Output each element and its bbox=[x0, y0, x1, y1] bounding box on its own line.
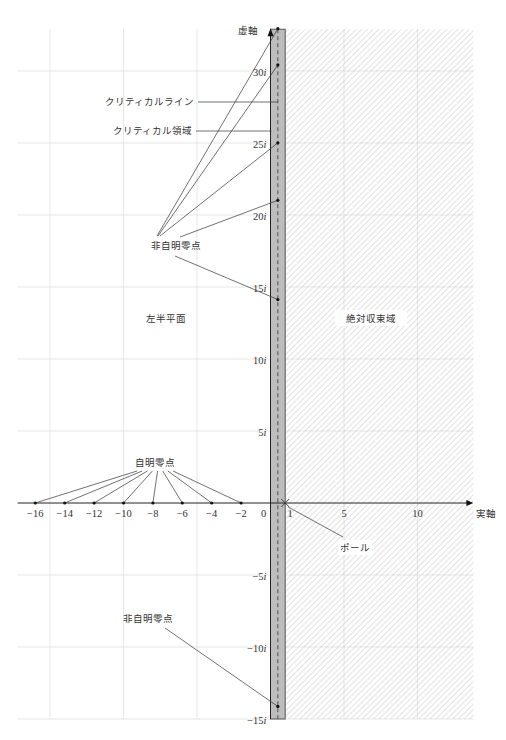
trivial-zero-leader bbox=[168, 471, 212, 503]
critical-strip-label: クリティカル領域 bbox=[113, 125, 192, 136]
y-tick-label: 30i bbox=[253, 67, 267, 78]
nontrivial-zero-leader bbox=[165, 628, 278, 706]
real-axis-label: 実軸 bbox=[476, 508, 496, 519]
y-tick-label: −10i bbox=[247, 643, 266, 654]
imaginary-axis-label: 虚軸 bbox=[238, 25, 258, 36]
trivial-zero-dot bbox=[93, 501, 96, 504]
trivial-zero-dot bbox=[151, 501, 154, 504]
y-tick-label: 20i bbox=[253, 211, 267, 222]
nontrivial-zero-dot bbox=[276, 199, 279, 202]
trivial-zero-dot bbox=[122, 501, 125, 504]
trivial-zeros-label: 自明零点 bbox=[135, 457, 175, 468]
nontrivial-zero-dot bbox=[276, 63, 279, 66]
trivial-zero-leader bbox=[35, 471, 137, 503]
nontrivial-zero-dot bbox=[276, 705, 279, 708]
nontrivial-zero-dot bbox=[276, 141, 279, 144]
left-half-plane-label: 左半平面 bbox=[146, 313, 186, 324]
trivial-zero-leader bbox=[65, 471, 142, 503]
trivial-zero-leader bbox=[163, 471, 183, 503]
x-tick-label: −2 bbox=[236, 508, 247, 519]
x-tick-label: −14 bbox=[56, 508, 73, 519]
absolute-convergence-label: 絶対収束域 bbox=[346, 313, 396, 324]
y-tick-label: 5i bbox=[258, 427, 266, 438]
riemann-zeta-complex-plane: −16−14−12−10−8−6−4−20151030i25i20i15i10i… bbox=[0, 0, 506, 740]
x-tick-label: −6 bbox=[177, 508, 188, 519]
x-tick-label: −12 bbox=[86, 508, 102, 519]
x-tick-label: −8 bbox=[147, 508, 158, 519]
x-tick-label: 1 bbox=[288, 508, 293, 519]
x-tick-label: 0 bbox=[261, 508, 266, 519]
trivial-zero-dot bbox=[63, 501, 66, 504]
y-tick-label: 15i bbox=[253, 283, 267, 294]
nontrivial-zeros-upper-label: 非自明零点 bbox=[151, 240, 201, 251]
trivial-zero-dot bbox=[240, 501, 243, 504]
trivial-zero-dot bbox=[181, 501, 184, 504]
x-tick-label: 5 bbox=[341, 508, 346, 519]
y-tick-label: −5i bbox=[252, 571, 266, 582]
y-tick-label: 10i bbox=[253, 355, 267, 366]
trivial-zero-leader bbox=[153, 471, 158, 503]
trivial-zero-leader bbox=[173, 471, 241, 503]
pole-label: ポール bbox=[340, 542, 370, 553]
absolute-convergence-region bbox=[285, 29, 473, 719]
nontrivial-zero-dot bbox=[276, 27, 279, 30]
nontrivial-zero-dot bbox=[276, 298, 279, 301]
x-tick-label: −10 bbox=[115, 508, 131, 519]
x-tick-label: 10 bbox=[412, 508, 423, 519]
critical-line-label: クリティカルライン bbox=[105, 96, 194, 107]
y-tick-label: −15i bbox=[247, 715, 266, 726]
y-tick-label: 25i bbox=[253, 139, 267, 150]
nontrivial-zero-leader bbox=[175, 256, 278, 300]
trivial-zero-dot bbox=[210, 501, 213, 504]
x-tick-label: −16 bbox=[27, 508, 43, 519]
x-tick-label: −4 bbox=[206, 508, 218, 519]
trivial-zero-leader bbox=[124, 471, 153, 503]
nontrivial-zero-leader bbox=[160, 143, 278, 236]
trivial-zero-dot bbox=[34, 501, 37, 504]
nontrivial-zeros-lower-label: 非自明零点 bbox=[123, 613, 173, 624]
